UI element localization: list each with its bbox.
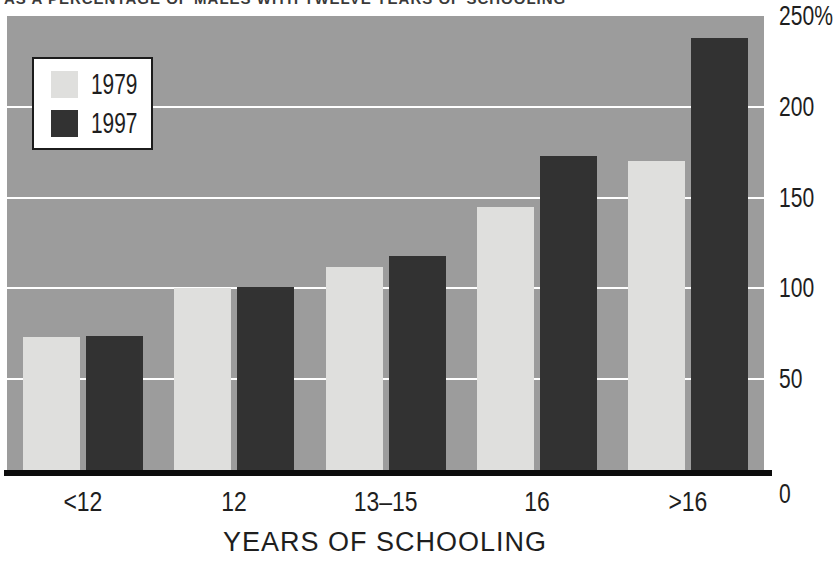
x-tick-label: <12 [64,487,103,517]
y-tick-label: 250% [779,2,833,30]
bar-1979-12 [174,288,231,470]
y-tick-label: 200 [779,93,814,121]
x-tick-label: 16 [524,487,550,517]
y-tick-50: 50 [779,365,837,393]
legend-swatch-1979 [51,71,78,98]
x-axis-title: YEARS OF SCHOOLING [223,527,547,558]
legend: 1979 1997 [32,57,153,150]
y-tick-label: 50 [779,365,802,393]
bar-1997-12 [237,287,294,470]
legend-row-1997: 1997 [51,109,151,137]
y-tick-label: 100 [779,274,814,302]
x-tick-label: 12 [221,487,247,517]
chart-title-text: AS A PERCENTAGE OF MALES WITH TWELVE YEA… [4,0,604,8]
legend-swatch-1997 [51,110,78,137]
legend-row-1979: 1979 [51,70,151,98]
y-tick-250: 250% [779,2,837,30]
x-tick-gt16: >16 [618,487,758,517]
legend-label-1979: 1979 [91,70,137,99]
x-tick-12: 12 [164,487,304,517]
y-tick-150: 150 [779,184,837,212]
y-tick-0: 0 [779,480,837,508]
x-tick-label: >16 [669,487,708,517]
bar-1979-gt16 [628,161,685,470]
x-tick-label: 13–15 [354,487,418,517]
y-tick-100: 100 [779,274,837,302]
y-tick-label: 150 [779,184,814,212]
bar-1997-16 [540,156,597,470]
bar-1979-lt12 [23,337,80,470]
bar-1997-gt16 [691,38,748,470]
x-tick-lt12: <12 [13,487,153,517]
y-tick-200: 200 [779,93,837,121]
bar-1997-lt12 [86,336,143,470]
legend-label-1997: 1997 [91,109,137,138]
chart-title-clipped: AS A PERCENTAGE OF MALES WITH TWELVE YEA… [4,0,604,8]
x-axis-line [4,470,772,476]
bar-1997-13-15 [389,256,446,470]
bar-1979-13-15 [326,267,383,470]
y-tick-label: 0 [779,480,791,508]
bar-1979-16 [477,207,534,470]
x-tick-13-15: 13–15 [316,487,456,517]
x-tick-16: 16 [467,487,607,517]
